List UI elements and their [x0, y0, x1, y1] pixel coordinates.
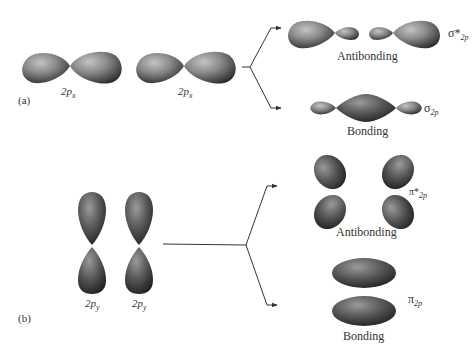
lobe-icon	[125, 247, 153, 294]
lobe-icon	[396, 102, 422, 115]
lobe-icon	[125, 192, 153, 245]
orbital-2px-left	[22, 52, 122, 84]
lobe-icon	[332, 296, 396, 326]
symbol-pi-2p: π2p	[408, 292, 422, 308]
branch-arrows-b	[163, 186, 277, 305]
pi-star-2p-orbital	[307, 149, 420, 236]
lobe-icon	[307, 149, 352, 196]
orbital-label-2px-left: 2px	[61, 85, 76, 100]
sigma-2p-orbital	[310, 94, 422, 122]
panel-a: 2px 2px (a) Antibonding σ*2p Bo	[18, 21, 468, 138]
lobe-icon	[393, 21, 440, 49]
lobe-icon	[332, 258, 396, 288]
branch-arrows-a	[242, 28, 281, 108]
lobe-icon	[335, 27, 359, 40]
symbol-pi-star-2p: π*2p	[409, 186, 427, 200]
symbol-sigma-star-2p: σ*2p	[448, 26, 468, 42]
lobe-icon	[184, 52, 236, 84]
lobe-icon	[78, 192, 106, 245]
lobe-icon	[310, 102, 336, 115]
orbital-2px-right	[136, 52, 236, 84]
panel-label-a: (a)	[18, 94, 31, 107]
lobe-icon	[369, 27, 393, 40]
caption-bonding-a: Bonding	[347, 124, 388, 138]
orbital-label-2py-left: 2py	[85, 297, 100, 312]
lobe-icon	[78, 247, 106, 294]
orbital-label-2py-right: 2py	[132, 297, 147, 312]
mo-diagram: 2px 2px (a) Antibonding σ*2p Bo	[0, 0, 472, 345]
caption-bonding-b: Bonding	[343, 329, 384, 343]
caption-antibonding-b: Antibonding	[336, 225, 397, 239]
panel-b: 2py 2py (b) Antibonding π*2p π2p B	[18, 149, 427, 343]
lobe-icon	[22, 53, 70, 83]
lobe-icon	[136, 53, 184, 83]
orbital-label-2px-right: 2px	[178, 85, 193, 100]
orbital-2py-right	[125, 192, 153, 294]
panel-label-b: (b)	[18, 312, 31, 325]
lobe-icon	[336, 94, 396, 122]
orbital-2py-left	[78, 192, 106, 294]
lobe-icon	[288, 21, 335, 49]
sigma-star-2p-orbital	[288, 21, 440, 49]
lobe-icon	[70, 52, 122, 84]
symbol-sigma-2p: σ2p	[424, 101, 438, 117]
caption-antibonding-a: Antibonding	[337, 49, 398, 63]
pi-2p-orbital	[332, 258, 396, 326]
